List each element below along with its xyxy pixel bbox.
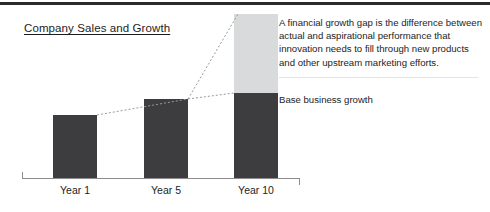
x-axis-line <box>22 178 300 179</box>
leader-line-year5-to-aspirational-top <box>188 14 238 99</box>
bar-year-5-base <box>144 99 188 178</box>
chart-figure: Company Sales and Growth Year 1 Year 5 Y… <box>0 0 490 212</box>
annotation-panel: A financial growth gap is the difference… <box>279 16 484 106</box>
bar-year-10-base <box>234 93 278 178</box>
x-axis-label-year-10: Year 10 <box>226 184 286 196</box>
plot-area: Year 1 Year 5 Year 10 <box>0 0 310 212</box>
base-business-growth-label: Base business growth <box>279 93 484 106</box>
x-axis-tick-right <box>299 178 300 185</box>
annotation-divider <box>279 77 478 78</box>
x-axis-tick-left <box>22 172 23 179</box>
growth-gap-description: A financial growth gap is the difference… <box>279 16 484 69</box>
x-axis-label-year-5: Year 5 <box>136 184 196 196</box>
bar-year-1-base <box>53 115 97 178</box>
leader-line-year5-to-base-top <box>188 93 234 99</box>
x-axis-label-year-1: Year 1 <box>45 184 105 196</box>
bar-year-10-growth-gap <box>234 14 278 93</box>
